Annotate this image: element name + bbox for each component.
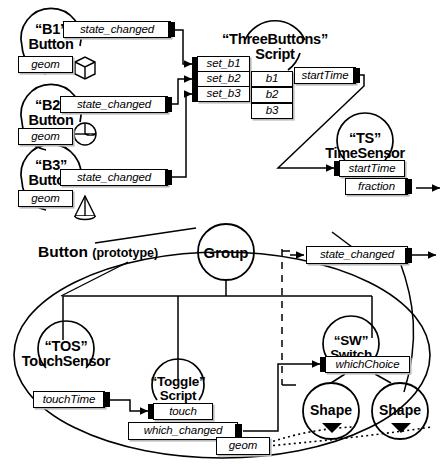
b1-event-plug xyxy=(168,22,175,37)
prototype-top-leader xyxy=(95,228,196,243)
cube-icon xyxy=(75,57,95,79)
proto-state-changed-plug xyxy=(405,248,412,263)
tos-type: TouchSensor xyxy=(8,354,124,369)
b1-type: Button xyxy=(20,37,82,52)
proto-state-changed-event[interactable]: state_changed xyxy=(306,246,408,264)
ts-name: “TS” xyxy=(311,131,419,146)
script-event-out-starttime[interactable]: startTime xyxy=(294,67,356,84)
tos-event-out-touchtime[interactable]: touchTime xyxy=(33,391,105,408)
tos-name: “TOS” xyxy=(8,339,124,354)
play-triangle-icon-2 xyxy=(391,423,411,433)
script-field-b3[interactable]: b3 xyxy=(251,103,293,119)
ts-type: TimeSensor xyxy=(311,146,419,161)
prototype-name: Button xyxy=(38,243,88,260)
script-field-b1[interactable]: b1 xyxy=(251,71,293,87)
toggle-event-in-touch[interactable]: touch xyxy=(153,403,213,420)
group-node-label: Group xyxy=(200,244,252,261)
script-event-in-set-b1[interactable]: set_b1 xyxy=(197,56,250,72)
b3-state-changed-event[interactable]: state_changed xyxy=(60,169,168,186)
proto-geom-field[interactable]: geom xyxy=(216,437,270,455)
b2-geom-field[interactable]: geom xyxy=(18,128,73,145)
script-field-b2[interactable]: b2 xyxy=(251,87,293,103)
shape-node-label-1: Shape xyxy=(303,402,359,418)
prototype-leader-line xyxy=(61,262,128,296)
prototype-qualifier: (prototype) xyxy=(92,246,158,260)
toggle-type: Script xyxy=(141,389,215,403)
ts-fraction-plug xyxy=(405,179,412,194)
sw-name: “SW” xyxy=(316,334,386,348)
ts-event-out-fraction[interactable]: fraction xyxy=(345,178,408,195)
b2-type: Button xyxy=(20,113,82,128)
b2-state-changed-event[interactable]: state_changed xyxy=(60,96,168,113)
b3-geom-field[interactable]: geom xyxy=(18,190,73,207)
play-triangle-icon-1 xyxy=(322,423,342,433)
toggle-name: “Toggle” xyxy=(141,375,215,389)
cone-icon xyxy=(75,196,95,220)
b1-state-changed-event[interactable]: state_changed xyxy=(63,21,171,38)
prototype-label: Button (prototype) xyxy=(38,243,158,261)
b3-event-plug xyxy=(165,170,172,185)
script-name: “ThreeButtons” xyxy=(214,32,336,47)
b2-event-plug xyxy=(165,97,172,112)
shape-node-label-2: Shape xyxy=(372,402,428,418)
ts-event-in-starttime[interactable]: startTime xyxy=(339,160,405,177)
node-label-toggle-script: “Toggle” Script xyxy=(141,375,215,403)
script-event-in-set-b3[interactable]: set_b3 xyxy=(197,86,250,102)
script-starttime-plug xyxy=(353,68,360,83)
b1-geom-field[interactable]: geom xyxy=(18,56,73,73)
script-event-in-set-b2[interactable]: set_b2 xyxy=(197,71,250,87)
node-label-timesensor: “TS” TimeSensor xyxy=(311,131,419,161)
switch-field-whichchoice[interactable]: whichChoice xyxy=(325,356,410,373)
node-label-touchsensor: “TOS” TouchSensor xyxy=(8,339,124,369)
diagram-canvas: “B1” Button “B2” Button “B3” Button “Thr… xyxy=(0,0,447,470)
tos-touchtime-plug xyxy=(103,392,110,407)
